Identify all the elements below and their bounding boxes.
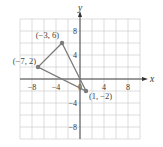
x-tick-label: −8	[28, 83, 37, 92]
y-tick-label: 8	[73, 27, 77, 36]
vertex-label: (−7, 2)	[13, 56, 36, 66]
vertex-point	[36, 65, 40, 69]
x-axis-label: x	[149, 74, 155, 84]
vertex-label: (−3, 6)	[36, 30, 59, 40]
coordinate-plane: xy −8−404884−4−8 (−3, 6)(−7, 2)(1, −2)	[0, 0, 163, 147]
vertex-label: (1, −2)	[89, 91, 112, 101]
x-tick-label: 8	[126, 83, 130, 92]
x-axis-arrow-icon	[142, 77, 148, 81]
x-tick-label: −4	[52, 83, 61, 92]
y-tick-label: 4	[73, 51, 77, 60]
vertex-point	[84, 89, 88, 93]
vertex-point	[60, 41, 64, 45]
axes: xy	[20, 3, 155, 139]
y-tick-label: −8	[68, 123, 77, 132]
y-axis-label: y	[77, 3, 83, 13]
y-tick-label: −4	[68, 99, 77, 108]
